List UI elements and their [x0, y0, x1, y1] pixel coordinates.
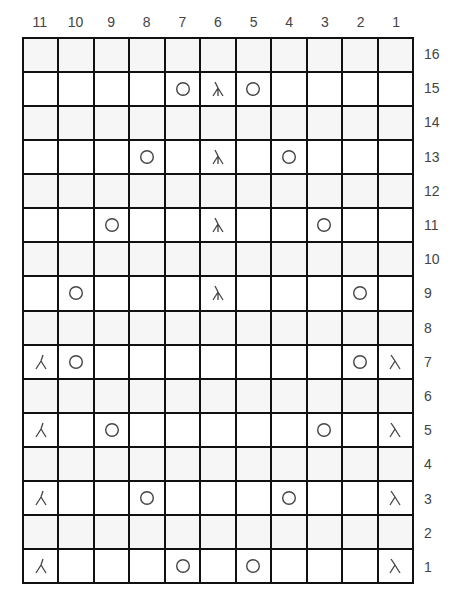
chart-cell	[24, 277, 57, 309]
chart-cell	[201, 550, 234, 582]
chart-cell	[166, 550, 199, 582]
chart-cell	[166, 312, 199, 344]
chart-cell	[95, 550, 128, 582]
chart-cell	[201, 312, 234, 344]
chart-cell	[166, 209, 199, 241]
chart-cell	[24, 209, 57, 241]
chart-cell	[308, 346, 341, 378]
chart-cell	[343, 414, 376, 446]
column-label: 9	[93, 12, 129, 32]
chart-cell	[130, 414, 163, 446]
yarn-over-icon	[352, 354, 368, 370]
column-label: 6	[200, 12, 236, 32]
chart-cell	[201, 482, 234, 514]
chart-cell	[237, 209, 270, 241]
chart-cell	[59, 312, 92, 344]
chart-cell	[343, 141, 376, 173]
chart-cell	[130, 277, 163, 309]
chart-cell	[201, 141, 234, 173]
chart-cell	[24, 414, 57, 446]
chart-cell	[308, 107, 341, 139]
centered-double-decrease-icon	[211, 284, 225, 302]
chart-cell	[237, 448, 270, 480]
yarn-over-icon	[68, 354, 84, 370]
chart-cell	[24, 107, 57, 139]
column-label: 8	[129, 12, 165, 32]
centered-double-decrease-icon	[211, 216, 225, 234]
chart-cell	[95, 380, 128, 412]
chart-cell	[379, 141, 412, 173]
chart-cell	[24, 243, 57, 275]
row-label: 11	[418, 208, 455, 242]
chart-cell	[166, 39, 199, 71]
chart-cell	[201, 175, 234, 207]
right-leaning-decrease-icon	[388, 353, 402, 371]
chart-cell	[59, 107, 92, 139]
chart-cell	[95, 346, 128, 378]
row-label: 4	[418, 447, 455, 481]
chart-cell	[379, 448, 412, 480]
chart-cell	[343, 550, 376, 582]
chart-cell	[59, 414, 92, 446]
chart-cell	[95, 448, 128, 480]
right-leaning-decrease-icon	[388, 421, 402, 439]
chart-cell	[130, 312, 163, 344]
yarn-over-icon	[175, 558, 191, 574]
chart-cell	[130, 380, 163, 412]
chart-cell	[166, 141, 199, 173]
chart-cell	[59, 243, 92, 275]
chart-cell	[379, 175, 412, 207]
chart-cell	[95, 312, 128, 344]
chart-cell	[379, 482, 412, 514]
chart-cell	[201, 107, 234, 139]
chart-cell	[379, 73, 412, 105]
row-label: 10	[418, 242, 455, 276]
left-leaning-decrease-icon	[34, 421, 48, 439]
chart-cell	[130, 448, 163, 480]
chart-cell	[59, 175, 92, 207]
left-leaning-decrease-icon	[34, 353, 48, 371]
chart-cell	[343, 482, 376, 514]
chart-cell	[201, 448, 234, 480]
column-label: 1	[378, 12, 414, 32]
chart-cell	[95, 277, 128, 309]
yarn-over-icon	[68, 285, 84, 301]
chart-cell	[308, 73, 341, 105]
chart-cell	[343, 39, 376, 71]
chart-cell	[272, 516, 305, 548]
chart-cell	[166, 107, 199, 139]
yarn-over-icon	[245, 81, 261, 97]
chart-cell	[379, 277, 412, 309]
yarn-over-icon	[281, 149, 297, 165]
row-number-labels: 16151413121110987654321	[418, 37, 455, 584]
chart-cell	[308, 516, 341, 548]
chart-cell	[95, 141, 128, 173]
chart-cell	[379, 243, 412, 275]
chart-cell	[130, 73, 163, 105]
chart-cell	[24, 39, 57, 71]
yarn-over-icon	[104, 217, 120, 233]
chart-cell	[237, 175, 270, 207]
row-label: 7	[418, 345, 455, 379]
chart-cell	[272, 550, 305, 582]
chart-cell	[237, 107, 270, 139]
chart-cell	[343, 243, 376, 275]
chart-cell	[237, 277, 270, 309]
chart-cell	[272, 277, 305, 309]
chart-cell	[24, 380, 57, 412]
chart-cell	[272, 141, 305, 173]
chart-cell	[308, 243, 341, 275]
column-label: 11	[22, 12, 58, 32]
chart-cell	[130, 550, 163, 582]
chart-cell	[59, 141, 92, 173]
chart-cell	[201, 39, 234, 71]
chart-cell	[24, 141, 57, 173]
chart-cell	[272, 312, 305, 344]
yarn-over-icon	[316, 217, 332, 233]
yarn-over-icon	[316, 422, 332, 438]
yarn-over-icon	[352, 285, 368, 301]
chart-cell	[95, 209, 128, 241]
chart-cell	[343, 107, 376, 139]
chart-cell	[343, 346, 376, 378]
chart-cell	[95, 243, 128, 275]
